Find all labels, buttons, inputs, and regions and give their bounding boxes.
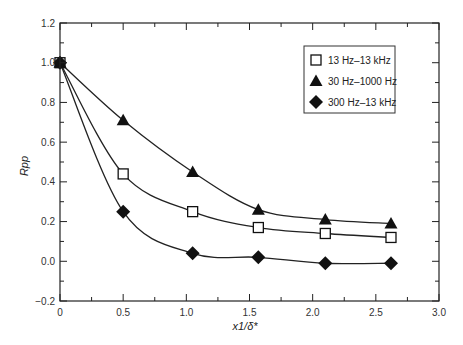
y-tick-label: 0.2 xyxy=(41,216,55,227)
legend-label: 30 Hz–1000 Hz xyxy=(328,76,397,87)
x-axis-title: x1/δ* xyxy=(231,320,258,332)
y-tick-label: 1.0 xyxy=(41,57,55,68)
legend-marker-open-square xyxy=(311,55,321,65)
y-tick-label: 1.2 xyxy=(41,18,55,29)
data-point-open-square xyxy=(118,169,128,179)
x-tick-label: 1.5 xyxy=(243,307,257,318)
x-tick-label: 1.0 xyxy=(179,307,193,318)
data-point-open-square xyxy=(253,223,263,233)
data-point-filled-triangle xyxy=(117,114,130,126)
y-tick-label: 0.4 xyxy=(41,176,55,187)
x-axis-title-text: x1/δ* xyxy=(231,320,258,332)
data-point-filled-diamond xyxy=(251,250,265,264)
data-point-filled-diamond xyxy=(116,205,130,219)
x-tick-label: 2.0 xyxy=(306,307,320,318)
y-tick-label: 0.6 xyxy=(41,137,55,148)
data-point-open-square xyxy=(188,207,198,217)
data-point-filled-diamond xyxy=(384,256,398,270)
data-point-open-square xyxy=(320,228,330,238)
legend-label: 300 Hz–13 kHz xyxy=(328,97,396,108)
y-axis-title-text: Rpp xyxy=(18,156,30,176)
x-tick-label: 0 xyxy=(57,307,63,318)
y-tick-label: 0.8 xyxy=(41,97,55,108)
y-tick-label: 0.0 xyxy=(41,256,55,267)
data-point-filled-diamond xyxy=(318,256,332,270)
data-point-open-square xyxy=(386,232,396,242)
data-point-filled-triangle xyxy=(186,165,199,177)
data-point-filled-triangle xyxy=(252,203,265,215)
x-tick-label: 3.0 xyxy=(432,307,446,318)
x-tick-label: 0.5 xyxy=(116,307,130,318)
x-tick-label: 2.5 xyxy=(369,307,383,318)
y-tick-label: −0.2 xyxy=(35,296,55,307)
y-axis-title: Rpp xyxy=(18,156,30,176)
legend-label: 13 Hz–13 kHz xyxy=(328,55,391,66)
legend: 13 Hz–13 kHz30 Hz–1000 Hz300 Hz–13 kHz xyxy=(304,46,397,113)
data-point-filled-diamond xyxy=(186,246,200,260)
chart: 00.51.01.52.02.53.0 1.21.00.80.60.40.20.… xyxy=(0,0,463,345)
